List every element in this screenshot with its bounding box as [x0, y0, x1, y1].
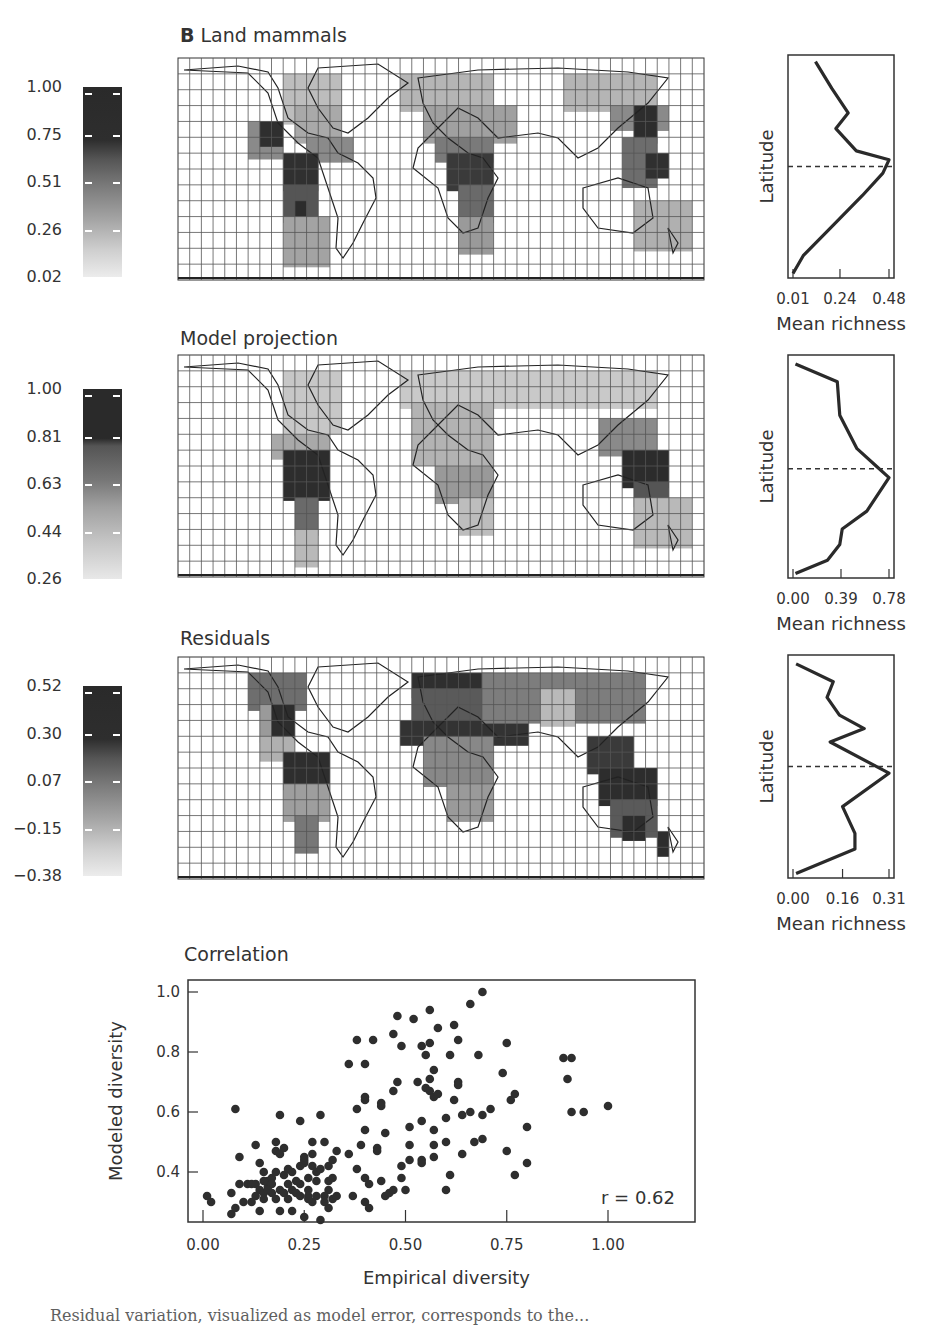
colorbar-tick-label: 0.81 [0, 427, 62, 446]
x-tick-label: 0.00 [776, 590, 809, 608]
colorbar-tick [113, 532, 120, 534]
colorbar-tick [113, 437, 120, 439]
x-tick-label: 0.00 [776, 890, 809, 908]
x-tick-label: 0.16 [826, 890, 859, 908]
colorbar-tick-label: 0.07 [0, 771, 62, 790]
colorbar-tick-label: 0.63 [0, 474, 62, 493]
colorbar-tick [113, 182, 120, 184]
colorbar-tick-label: 1.00 [0, 379, 62, 398]
colorbar-tick [113, 781, 120, 783]
richness-line [796, 664, 889, 874]
colorbar-tick [85, 437, 92, 439]
y-axis-title: Latitude [756, 729, 777, 803]
colorbar-tick [113, 484, 120, 486]
panel-title-land-mammals: B Land mammals [180, 24, 347, 46]
colorbar-tick-label: 0.52 [0, 676, 62, 695]
colorbar-tick-label: 0.75 [0, 125, 62, 144]
map-residuals [178, 657, 704, 879]
colorbar-tick [113, 734, 120, 736]
y-axis-title: Modeled diversity [105, 1021, 126, 1181]
colorbar-tick-label: 0.02 [0, 267, 62, 286]
x-tick-label: 0.24 [823, 290, 856, 308]
latitude-profile-residuals: 0.000.160.31LatitudeMean richness [740, 640, 937, 940]
y-tick-label: 0.4 [156, 1163, 180, 1181]
colorbar-tick [85, 532, 92, 534]
latitude-profile-land-mammals: 0.010.240.48LatitudeMean richness [740, 40, 937, 340]
x-tick-label: 0.25 [288, 1236, 321, 1254]
panel-title-residuals: Residuals [180, 627, 270, 649]
x-axis-title: Mean richness [776, 313, 906, 334]
latitude-profile-model-projection: 0.000.390.78LatitudeMean richness [740, 340, 937, 640]
richness-line [793, 62, 889, 274]
y-axis-title: Latitude [756, 129, 777, 203]
map-land-mammals [178, 58, 704, 280]
colorbar-tick [85, 692, 92, 694]
correlation-annotation: r = 0.62 [601, 1187, 675, 1208]
y-tick-label: 1.0 [156, 983, 180, 1001]
colorbar-tick-label: −0.38 [0, 866, 62, 885]
colorbar-tick [85, 829, 92, 831]
x-tick-label: 0.00 [186, 1236, 219, 1254]
colorbar-tick-label: −0.15 [0, 819, 62, 838]
colorbar-tick [85, 484, 92, 486]
colorbar-tick [85, 734, 92, 736]
colorbar-tick-label: 0.26 [0, 220, 62, 239]
x-axis-title: Mean richness [776, 613, 906, 634]
scatter-title: Correlation [184, 943, 289, 965]
panel-title-model-projection: Model projection [180, 327, 338, 349]
colorbar-tick [113, 692, 120, 694]
x-axis-title: Empirical diversity [363, 1267, 530, 1288]
correlation-scatter-plot: 0.000.250.500.751.001.00.80.60.4r = 0.62… [100, 970, 720, 1290]
colorbar-tick-label: 0.51 [0, 172, 62, 191]
x-tick-label: 0.48 [872, 290, 905, 308]
y-tick-label: 0.6 [156, 1103, 180, 1121]
colorbar-tick [113, 230, 120, 232]
x-tick-label: 0.01 [776, 290, 809, 308]
x-tick-label: 1.00 [591, 1236, 624, 1254]
colorbar-tick-label: 1.00 [0, 77, 62, 96]
scatter-points [203, 988, 613, 1225]
x-tick-label: 0.50 [389, 1236, 422, 1254]
colorbar-tick-label: 0.30 [0, 724, 62, 743]
colorbar-tick [113, 829, 120, 831]
x-tick-label: 0.75 [490, 1236, 523, 1254]
y-tick-label: 0.8 [156, 1043, 180, 1061]
colorbar-tick-label: 0.44 [0, 522, 62, 541]
map-model-projection [178, 355, 704, 577]
x-axis-title: Mean richness [776, 913, 906, 934]
colorbar-tick [113, 135, 120, 137]
colorbar-tick [113, 395, 120, 397]
figure-title: Land mammals [201, 24, 347, 46]
figure-label: B [180, 24, 194, 46]
colorbar-tick-label: 0.26 [0, 569, 62, 588]
figure-caption-fragment: Residual variation, visualized as model … [50, 1306, 589, 1325]
x-tick-label: 0.31 [872, 890, 905, 908]
x-tick-label: 0.39 [824, 590, 857, 608]
colorbar-tick [85, 93, 92, 95]
colorbar-tick [113, 93, 120, 95]
colorbar-tick [85, 781, 92, 783]
colorbar-tick [85, 135, 92, 137]
y-axis-title: Latitude [756, 429, 777, 503]
x-tick-label: 0.78 [872, 590, 905, 608]
colorbar-tick [85, 182, 92, 184]
colorbar-tick [85, 395, 92, 397]
colorbar-tick [85, 230, 92, 232]
